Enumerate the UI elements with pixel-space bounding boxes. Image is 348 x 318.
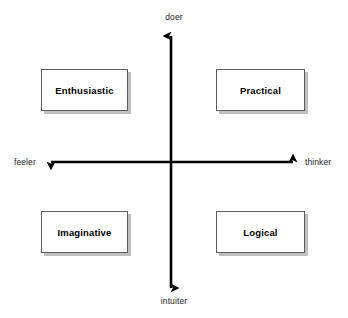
quadrant-label-logical: Logical (243, 227, 277, 238)
axes-group (0, 0, 348, 318)
axis-label-doer: doer (0, 12, 348, 22)
quadrant-box-bottom-left: Imaginative (41, 211, 128, 253)
quadrant-label-imaginative: Imaginative (58, 227, 112, 238)
axis-label-intuiter: intuiter (0, 296, 348, 306)
axis-label-feeler: feeler (14, 157, 36, 167)
quadrant-box-top-left: Enthusiastic (41, 69, 128, 111)
quadrant-label-enthusiastic: Enthusiastic (55, 85, 113, 96)
quadrant-box-bottom-right: Logical (216, 211, 305, 253)
quadrant-box-top-right: Practical (216, 69, 305, 111)
quadrant-label-practical: Practical (240, 85, 281, 96)
quadrant-diagram: doer intuiter feeler thinker Enthusiasti… (0, 0, 348, 318)
axis-label-thinker: thinker (305, 157, 331, 167)
